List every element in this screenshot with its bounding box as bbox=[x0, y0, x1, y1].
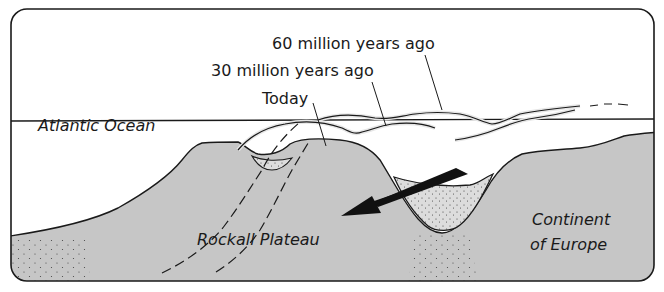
leader-line-60 bbox=[425, 55, 442, 110]
label-rockall-plateau: Rockall Plateau bbox=[197, 230, 320, 249]
label-today: Today bbox=[261, 89, 308, 108]
label-30-million-years: 30 million years ago bbox=[211, 61, 374, 80]
label-60-million-years: 60 million years ago bbox=[272, 34, 435, 53]
label-continent-line1: Continent bbox=[532, 210, 611, 229]
sediment-texture-trough-below bbox=[408, 235, 478, 285]
rockall-cross-section-diagram: 60 million years ago 30 million years ag… bbox=[0, 0, 664, 292]
label-continent-line2: of Europe bbox=[530, 235, 607, 254]
label-atlantic-ocean: Atlantic Ocean bbox=[37, 116, 155, 135]
sediment-texture-left bbox=[12, 240, 90, 285]
